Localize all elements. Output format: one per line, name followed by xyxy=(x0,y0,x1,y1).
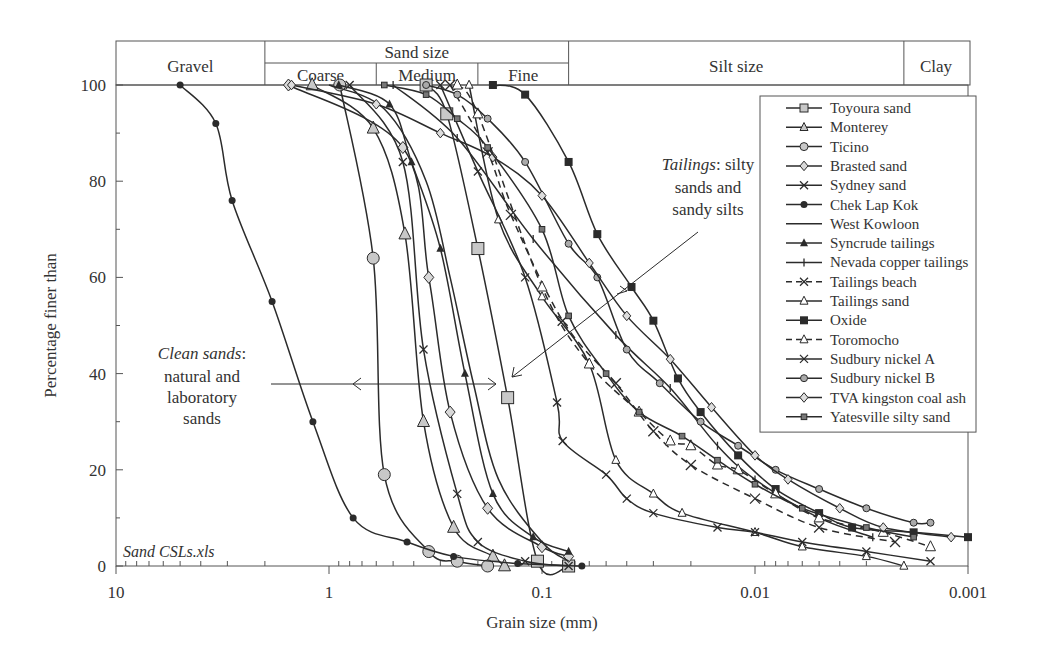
tailings-annotation-line: sandy silts xyxy=(672,200,743,219)
x-tick-label: 0.1 xyxy=(531,583,552,602)
size-class-label: Gravel xyxy=(167,57,214,76)
series-west-kowloon xyxy=(329,85,569,561)
size-class-label: Silt size xyxy=(709,57,763,76)
size-class-label: Sand size xyxy=(384,43,449,62)
grain-size-chart: GravelSand sizeSilt sizeClayCoarseMedium… xyxy=(0,0,1044,665)
legend-label: Oxide xyxy=(830,312,867,328)
legend-label: Yatesville silty sand xyxy=(830,409,951,425)
x-tick-label: 0.01 xyxy=(740,583,770,602)
file-label: Sand CSLs.xls xyxy=(123,543,215,560)
legend-label: Toyoura sand xyxy=(830,100,912,116)
legend-label: Chek Lap Kok xyxy=(830,197,919,213)
legend-label: Ticino xyxy=(830,139,869,155)
legend-label: Nevada copper tailings xyxy=(830,254,968,270)
legend-label: Tailings beach xyxy=(830,274,917,290)
legend-label: West Kowloon xyxy=(830,216,920,232)
tailings-annotation: Tailings: silty xyxy=(662,155,755,174)
legend-label: Syncrude tailings xyxy=(830,235,935,251)
legend-label: Monterey xyxy=(830,119,889,135)
legend-label: TVA kingston coal ash xyxy=(830,390,966,406)
legend-label: Sudbury nickel B xyxy=(830,370,935,386)
legend-label: Sudbury nickel A xyxy=(830,351,935,367)
size-class-header: GravelSand sizeSilt sizeClayCoarseMedium… xyxy=(116,41,970,85)
legend-label: Brasted sand xyxy=(830,158,908,174)
x-tick-label: 10 xyxy=(108,583,125,602)
clean-sands-annotation-line: laboratory xyxy=(167,388,237,407)
series-toyoura-sand xyxy=(420,79,574,575)
y-tick-label: 80 xyxy=(89,172,106,191)
legend-label: Tailings sand xyxy=(830,293,910,309)
clean-sands-annotation-line: sands xyxy=(183,409,221,428)
legend-label: Toromocho xyxy=(830,332,899,348)
sand-subclass-label: Fine xyxy=(508,66,538,85)
clean-sands-annotation-line: natural and xyxy=(164,367,240,386)
y-tick-label: 40 xyxy=(89,365,106,384)
size-class-label: Clay xyxy=(920,57,953,76)
y-tick-label: 100 xyxy=(81,76,107,95)
y-tick-label: 0 xyxy=(98,557,107,576)
tailings-annotation-line: sands and xyxy=(675,178,742,197)
legend-label: Sydney sand xyxy=(830,177,907,193)
y-tick-label: 20 xyxy=(89,461,106,480)
y-tick-label: 60 xyxy=(89,268,106,287)
legend: Toyoura sandMontereyTicinoBrasted sandSy… xyxy=(760,96,976,432)
y-axis-label: Percentage finer than xyxy=(41,253,60,398)
clean-sands-annotation: Clean sands: xyxy=(158,344,246,363)
series-brasted-sand xyxy=(283,79,573,562)
x-axis-label: Grain size (mm) xyxy=(486,613,597,632)
x-tick-label: 0.001 xyxy=(949,583,987,602)
x-tick-label: 1 xyxy=(325,583,334,602)
